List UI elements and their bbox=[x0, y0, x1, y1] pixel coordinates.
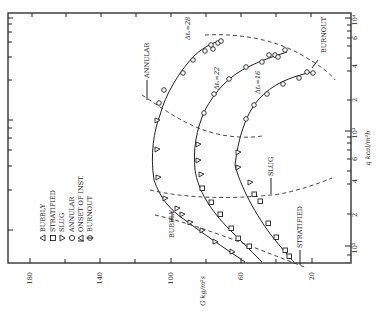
label-dt28: Δtₛ=28 bbox=[184, 17, 192, 41]
q-tick-6b: 6 bbox=[351, 157, 359, 161]
q-tick-2b: 2 bbox=[351, 213, 359, 217]
legend: BUBBLY STRATIFIED SLUG ANNULAR ONSET OF … bbox=[39, 175, 94, 241]
label-annular: ANNULAR bbox=[143, 41, 151, 79]
label-dt16: Δtₛ=16 bbox=[254, 71, 262, 95]
left-ticks bbox=[8, 18, 13, 230]
label-dt22: Δtₛ=22 bbox=[213, 67, 221, 91]
slug-boundary bbox=[150, 178, 332, 197]
legend-onset: ONSET OF INST. bbox=[77, 175, 85, 232]
q-axis-label: q kcal/m²h bbox=[364, 131, 372, 166]
label-burnout: BURNOUT bbox=[320, 16, 328, 53]
q-axis: 10⁴ 6 4 2 10³ 6 4 2 10² q kcal/m²h bbox=[345, 14, 372, 255]
curve-dt28 bbox=[152, 115, 245, 262]
q-tick-4: 4 bbox=[351, 64, 359, 68]
label-slug: SLUG bbox=[267, 157, 275, 176]
q-tick-1e2: 10² bbox=[351, 242, 359, 253]
flow-pattern-chart: 10⁴ 6 4 2 10³ 6 4 2 10² q kcal/m²h 180 1… bbox=[0, 0, 380, 317]
g-tick-20: 20 bbox=[308, 272, 316, 280]
g-tick-180: 180 bbox=[26, 272, 34, 284]
g-tick-100: 100 bbox=[167, 272, 175, 284]
q-tick-4b: 4 bbox=[351, 179, 359, 183]
q-tick-1e3: 10³ bbox=[351, 127, 359, 138]
legend-slug: SLUG bbox=[58, 213, 66, 232]
legend-bubbly: BUBBLY bbox=[39, 203, 47, 232]
legend-burnout: BURNOUT bbox=[86, 195, 94, 232]
q-tick-6: 6 bbox=[351, 36, 359, 40]
g-axis: 180 140 100 60 20 G kg/m²s bbox=[26, 258, 316, 306]
g-axis-label: G kg/m²s bbox=[199, 275, 207, 305]
legend-stratified: STRATIFIED bbox=[49, 190, 57, 232]
q-tick-1e4: 10⁴ bbox=[351, 14, 359, 25]
markers bbox=[155, 39, 315, 259]
bubbly-stratified-boundary bbox=[155, 215, 307, 268]
g-tick-60: 60 bbox=[237, 272, 245, 280]
legend-annular: ANNULAR bbox=[68, 195, 76, 233]
q-tick-2: 2 bbox=[351, 98, 359, 102]
g-tick-140: 140 bbox=[96, 272, 104, 284]
label-stratified: STRATIFIED bbox=[296, 206, 304, 248]
curve-dt16-lower bbox=[235, 165, 294, 262]
